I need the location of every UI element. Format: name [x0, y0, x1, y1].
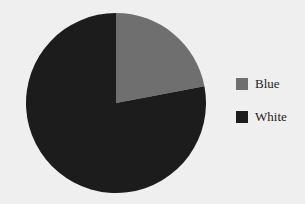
legend-label: Blue	[255, 76, 280, 92]
legend-item-white: White	[236, 109, 287, 125]
legend-label: White	[255, 109, 287, 125]
legend-item-blue: Blue	[236, 76, 287, 92]
legend: Blue White	[236, 76, 287, 142]
legend-swatch-white	[236, 111, 248, 123]
legend-swatch-blue	[236, 78, 248, 90]
